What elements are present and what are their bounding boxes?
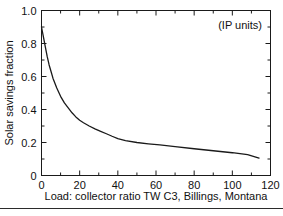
x-tick-label: 120 bbox=[261, 179, 279, 191]
x-tick-label: 40 bbox=[112, 179, 124, 191]
units-annotation: (IP units) bbox=[218, 19, 262, 31]
x-tick-label: 80 bbox=[188, 179, 200, 191]
y-axis-label: Solar savings fraction bbox=[3, 40, 15, 145]
y-tick-label: 1.0 bbox=[21, 5, 36, 17]
x-axis-minor-ticks bbox=[61, 11, 252, 176]
x-tick-label: 20 bbox=[74, 179, 86, 191]
x-axis-major-ticks bbox=[42, 11, 271, 176]
figure-container: 020406080100120 00.20.40.60.81.0 (IP uni… bbox=[0, 0, 283, 216]
x-tick-label: 0 bbox=[38, 179, 44, 191]
x-axis-tick-labels: 020406080100120 bbox=[38, 179, 279, 191]
y-axis-major-ticks bbox=[42, 11, 271, 176]
y-tick-label: 0.6 bbox=[21, 71, 36, 83]
x-axis-label: Load: collector ratio TW C3, Billings, M… bbox=[45, 190, 269, 202]
footer-divider bbox=[0, 208, 283, 209]
y-axis-minor-ticks bbox=[42, 27, 271, 159]
y-tick-label: 0.8 bbox=[21, 38, 36, 50]
data-series-group bbox=[42, 27, 260, 158]
x-tick-label: 100 bbox=[223, 179, 241, 191]
x-tick-label: 60 bbox=[150, 179, 162, 191]
series-line bbox=[42, 27, 260, 158]
y-tick-label: 0 bbox=[30, 170, 36, 182]
y-tick-label: 0.2 bbox=[21, 137, 36, 149]
y-axis-tick-labels: 00.20.40.60.81.0 bbox=[21, 5, 36, 182]
plot-frame bbox=[42, 11, 271, 176]
solar-savings-fraction-chart: 020406080100120 00.20.40.60.81.0 (IP uni… bbox=[0, 0, 283, 216]
y-tick-label: 0.4 bbox=[21, 104, 36, 116]
